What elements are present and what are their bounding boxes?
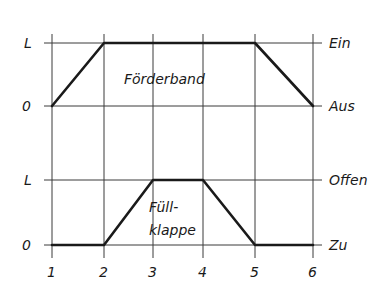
x-tick-labels: 1 2 3 4 5 6 xyxy=(47,264,317,280)
tick-label-2: 2 xyxy=(99,264,108,280)
timing-diagram: L 0 L 0 Ein Aus Offen Zu Förderband Füll… xyxy=(0,0,383,294)
bottom-left-low-label: 0 xyxy=(22,237,31,253)
fuellklappe-label-line2: klappe xyxy=(149,222,196,238)
bottom-right-high-label: Offen xyxy=(329,172,368,188)
top-left-low-label: 0 xyxy=(22,98,31,114)
top-left-high-label: L xyxy=(24,35,32,51)
top-right-low-label: Aus xyxy=(328,98,355,114)
bottom-left-high-label: L xyxy=(24,172,32,188)
bottom-right-low-label: Zu xyxy=(328,237,348,253)
foerderband-label: Förderband xyxy=(124,71,205,87)
tick-label-3: 3 xyxy=(148,264,157,280)
tick-label-4: 4 xyxy=(198,264,207,280)
top-right-high-label: Ein xyxy=(329,35,351,51)
tick-label-1: 1 xyxy=(47,264,56,280)
fuellklappe-label-line1: Füll- xyxy=(149,199,178,215)
tick-label-5: 5 xyxy=(250,264,259,280)
tick-label-6: 6 xyxy=(308,264,317,280)
